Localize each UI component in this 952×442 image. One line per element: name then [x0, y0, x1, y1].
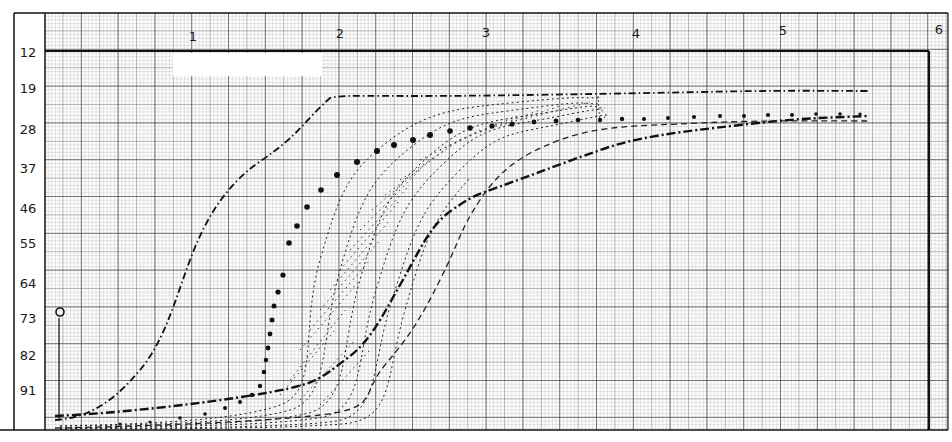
- graph-paper-chart: 12 19 28 37 46 55 64 73 82 91 1 2 3 4 5 …: [0, 0, 952, 442]
- y-tick-label: 55: [20, 236, 37, 251]
- x-tick-label: 5: [779, 23, 787, 38]
- x-tick-label: 1: [189, 29, 197, 44]
- y-tick-label: 73: [20, 311, 37, 326]
- y-tick-label: 82: [20, 348, 37, 363]
- x-tick-label: 3: [482, 25, 490, 40]
- y-tick-label: 91: [20, 383, 37, 398]
- y-tick-label: 19: [20, 81, 37, 96]
- y-tick-label: 46: [20, 201, 37, 216]
- x-tick-label: 2: [336, 26, 344, 41]
- y-tick-label: 64: [20, 276, 37, 291]
- y-tick-label: 37: [20, 161, 37, 176]
- y-tick-label: 28: [20, 122, 37, 137]
- redacted-title-box: [173, 53, 322, 76]
- x-tick-label: 4: [632, 26, 640, 41]
- y-tick-label: 12: [20, 45, 37, 60]
- x-tick-label: 6: [935, 22, 943, 37]
- plot-area: [0, 0, 952, 442]
